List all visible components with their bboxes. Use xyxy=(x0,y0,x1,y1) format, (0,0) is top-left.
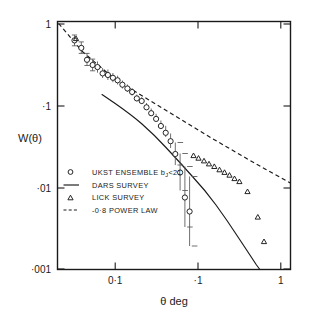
legend-label-ukst-main: UKST ENSEMBLE b xyxy=(92,168,165,177)
legend-label-ukst: UKST ENSEMBLE bJ<21 xyxy=(92,168,182,178)
y-tick-label-0.1: ·1 xyxy=(42,101,51,112)
x-axis-title: θ deg xyxy=(160,295,188,307)
x-axis-ticks xyxy=(115,22,281,270)
x-tick-label-0.01: 0·1 xyxy=(108,275,123,286)
legend: UKST ENSEMBLE bJ<21 DARS SURVEY LICK SUR… xyxy=(64,168,183,215)
angular-correlation-plot: 1 ·1 ·01 ·001 0·1 ·1 1 θ deg W(θ) xyxy=(0,0,314,325)
x-tick-label-0.1: ·1 xyxy=(194,275,203,286)
legend-label-dars: DARS SURVEY xyxy=(92,181,149,190)
figure-root: 1 ·1 ·01 ·001 0·1 ·1 1 θ deg W(θ) xyxy=(0,0,314,325)
legend-entry-ukst[interactable]: UKST ENSEMBLE bJ<21 xyxy=(68,168,182,178)
open-triangle-icon xyxy=(68,195,73,200)
y-axis-title: W(θ) xyxy=(18,132,42,144)
x-tick-label-1: 1 xyxy=(278,275,284,286)
y-tick-label-0.001: ·001 xyxy=(31,264,51,275)
legend-entry-lick[interactable]: LICK SURVEY xyxy=(68,193,145,202)
legend-entry-power-law[interactable]: -0·8 POWER LAW xyxy=(64,206,158,215)
y-tick-label-0.01: ·01 xyxy=(37,183,52,194)
legend-label-power-law: -0·8 POWER LAW xyxy=(92,206,158,215)
power-law-dashed-curve xyxy=(59,24,291,184)
legend-label-ukst-tail: <21 xyxy=(168,168,182,177)
y-tick-label-1: 1 xyxy=(45,19,51,30)
open-circle-icon xyxy=(68,170,73,175)
legend-label-lick: LICK SURVEY xyxy=(92,193,145,202)
legend-entry-dars[interactable]: DARS SURVEY xyxy=(64,181,149,190)
